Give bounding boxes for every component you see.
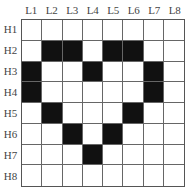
- grid-cell-H6-L1: [22, 124, 42, 145]
- grid-cell-H2-L2: [42, 41, 62, 62]
- grid-cell-H1-L4: [83, 20, 103, 41]
- grid-cell-H4-L6: [123, 82, 143, 103]
- grid-cell-H4-L7: [144, 82, 164, 103]
- grid-cell-H2-L7: [144, 41, 164, 62]
- grid-cell-H7-L4: [83, 145, 103, 166]
- grid-cell-H5-L4: [83, 103, 103, 124]
- grid-cell-H7-L7: [144, 145, 164, 166]
- grid-cell-H6-L7: [144, 124, 164, 145]
- grid-cell-H2-L1: [22, 41, 42, 62]
- grid-cell-H1-L7: [144, 20, 164, 41]
- grid-cell-H3-L8: [164, 62, 184, 83]
- grid-cell-H5-L8: [164, 103, 184, 124]
- grid-cell-H5-L2: [42, 103, 62, 124]
- grid-cell-H4-L4: [83, 82, 103, 103]
- column-label: L2: [42, 2, 63, 18]
- grid-cell-H3-L3: [63, 62, 83, 83]
- grid-cell-H4-L1: [22, 82, 42, 103]
- row-label: H7: [0, 145, 21, 166]
- grid-cell-H6-L2: [42, 124, 62, 145]
- row-label: H1: [0, 19, 21, 40]
- column-label: L3: [62, 2, 83, 18]
- grid-cell-H8-L6: [123, 165, 143, 186]
- grid-cell-H5-L3: [63, 103, 83, 124]
- row-label: H6: [0, 124, 21, 145]
- row-label: H8: [0, 166, 21, 187]
- column-labels: L1 L2 L3 L4 L5 L6 L7 L8: [21, 2, 185, 18]
- grid-cell-H8-L8: [164, 165, 184, 186]
- grid-cell-H7-L2: [42, 145, 62, 166]
- grid-cell-H6-L3: [63, 124, 83, 145]
- grid-cell-H7-L8: [164, 145, 184, 166]
- column-label: L5: [103, 2, 124, 18]
- grid-cell-H4-L3: [63, 82, 83, 103]
- grid-cell-H6-L6: [123, 124, 143, 145]
- grid-cell-H1-L6: [123, 20, 143, 41]
- grid-cell-H3-L7: [144, 62, 164, 83]
- grid-cell-H1-L1: [22, 20, 42, 41]
- column-label: L8: [165, 2, 186, 18]
- grid-cell-H7-L1: [22, 145, 42, 166]
- grid-cell-H6-L5: [103, 124, 123, 145]
- grid-cell-H5-L7: [144, 103, 164, 124]
- grid-cell-H5-L5: [103, 103, 123, 124]
- grid-cell-H6-L8: [164, 124, 184, 145]
- grid-cell-H6-L4: [83, 124, 103, 145]
- grid-cell-H8-L7: [144, 165, 164, 186]
- grid-cell-H2-L3: [63, 41, 83, 62]
- grid-cell-H1-L3: [63, 20, 83, 41]
- column-label: L6: [124, 2, 145, 18]
- grid-cell-H8-L3: [63, 165, 83, 186]
- grid-cell-H3-L5: [103, 62, 123, 83]
- grid-cell-H7-L6: [123, 145, 143, 166]
- row-label: H3: [0, 61, 21, 82]
- heart-grid: [21, 19, 185, 187]
- row-labels: H1 H2 H3 H4 H5 H6 H7 H8: [0, 19, 21, 187]
- grid-cell-H5-L6: [123, 103, 143, 124]
- grid-cell-H3-L2: [42, 62, 62, 83]
- grid-cell-H8-L5: [103, 165, 123, 186]
- grid-cell-H1-L5: [103, 20, 123, 41]
- grid-cell-H2-L8: [164, 41, 184, 62]
- grid-cell-H8-L4: [83, 165, 103, 186]
- grid-cell-H7-L5: [103, 145, 123, 166]
- grid-cell-H1-L8: [164, 20, 184, 41]
- column-label: L7: [144, 2, 165, 18]
- row-label: H4: [0, 82, 21, 103]
- grid-cell-H3-L4: [83, 62, 103, 83]
- grid-cell-H4-L5: [103, 82, 123, 103]
- grid-cell-H3-L1: [22, 62, 42, 83]
- grid-cell-H2-L6: [123, 41, 143, 62]
- grid-cell-H2-L4: [83, 41, 103, 62]
- grid-cell-H4-L8: [164, 82, 184, 103]
- grid-cell-H2-L5: [103, 41, 123, 62]
- grid-cell-H5-L1: [22, 103, 42, 124]
- grid-cell-H8-L2: [42, 165, 62, 186]
- row-label: H5: [0, 103, 21, 124]
- grid-cell-H3-L6: [123, 62, 143, 83]
- row-label: H2: [0, 40, 21, 61]
- column-label: L4: [83, 2, 104, 18]
- grid-cell-H8-L1: [22, 165, 42, 186]
- grid-cell-H7-L3: [63, 145, 83, 166]
- column-label: L1: [21, 2, 42, 18]
- grid-cell-H4-L2: [42, 82, 62, 103]
- grid-cell-H1-L2: [42, 20, 62, 41]
